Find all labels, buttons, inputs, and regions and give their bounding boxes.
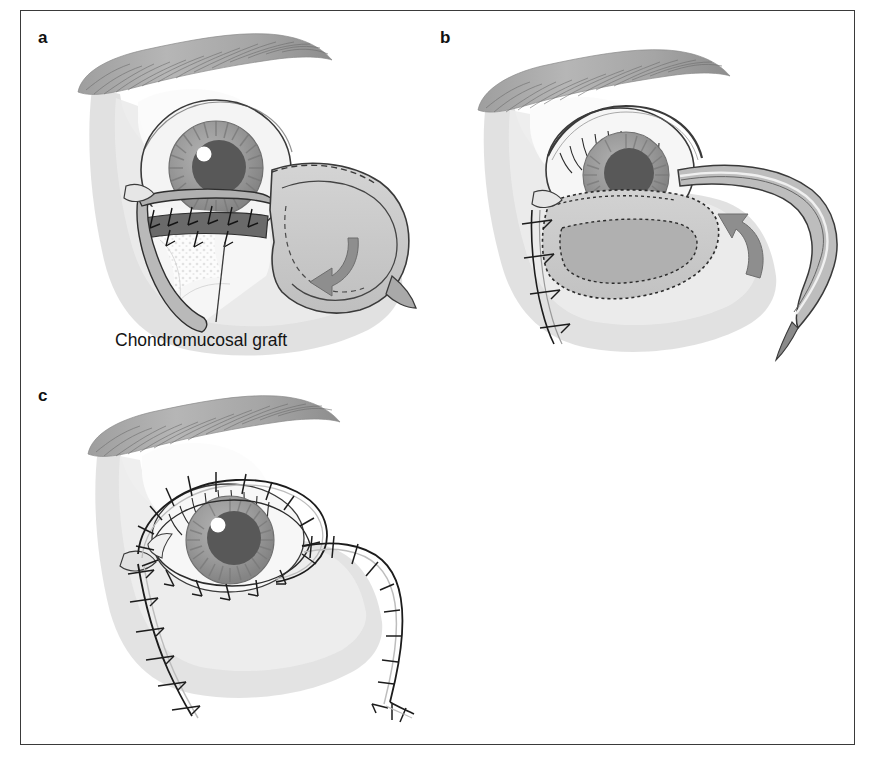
panel-c-illustration [20,378,440,745]
eyebrow [78,34,332,95]
rotation-flap-a [270,163,416,313]
iris-c [186,496,274,584]
chondromucosal-graft-label: Chondromucosal graft [115,330,287,351]
panel-a-illustration [20,10,440,385]
panel-a: a [20,10,440,385]
iris [169,121,263,215]
panel-b-letter: b [440,28,450,48]
panel-c: c [20,378,440,745]
figure-root: a [0,0,872,770]
panel-b-illustration [430,10,855,385]
panel-a-letter: a [38,28,47,48]
panel-b: b [430,10,855,385]
panel-c-letter: c [38,386,47,406]
